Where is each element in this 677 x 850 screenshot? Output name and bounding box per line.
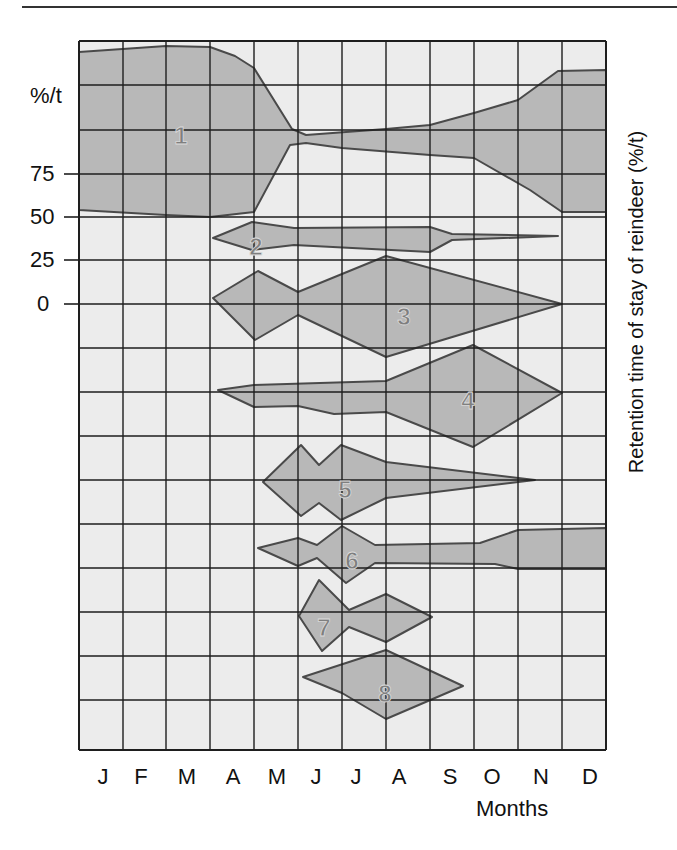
shape-label-4: 4 [461, 387, 475, 414]
month-apr: A [218, 764, 248, 790]
y-tick-25: 25 [30, 247, 54, 273]
shape-label-1: 1 [174, 122, 187, 149]
shape-label-3: 3 [397, 303, 410, 330]
plot-area: 12345678 [0, 0, 677, 850]
month-aug: A [384, 764, 414, 790]
month-may: M [262, 764, 292, 790]
month-jun: J [301, 764, 331, 790]
y-tick-75: 75 [30, 161, 54, 187]
month-nov: N [526, 764, 556, 790]
month-dec: D [575, 764, 605, 790]
shape-label-7: 7 [317, 614, 330, 641]
y-tick-50: 50 [30, 204, 54, 230]
shape-label-2: 2 [249, 233, 262, 260]
month-jul: J [341, 764, 371, 790]
y-axis-title-right: Retention time of stay of reindeer (%/t) [625, 131, 648, 473]
y-tick-0: 0 [37, 291, 49, 317]
month-sep: S [435, 764, 465, 790]
shape-label-6: 6 [345, 547, 358, 574]
shape-label-8: 8 [378, 680, 391, 707]
y-axis-unit: %/t [30, 83, 62, 109]
x-axis-title: Months [476, 796, 548, 822]
month-oct: O [477, 764, 507, 790]
y-tick-marks [64, 174, 79, 304]
shape-label-5: 5 [338, 476, 351, 503]
month-jan: J [88, 764, 118, 790]
month-feb: F [126, 764, 156, 790]
month-mar: M [172, 764, 202, 790]
